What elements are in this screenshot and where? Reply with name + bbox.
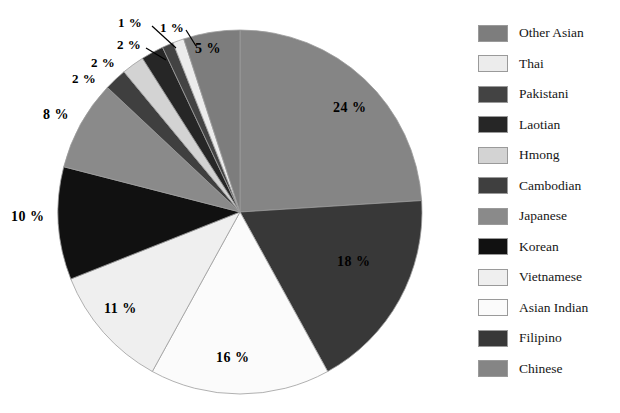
legend-item-label: Thai	[519, 56, 544, 72]
pie-label-cambodian: 2 %	[72, 71, 96, 87]
legend-item-chinese[interactable]: Chinese	[478, 354, 620, 385]
legend-swatch-icon	[478, 177, 508, 194]
legend-swatch-icon	[478, 299, 508, 316]
legend-item-pakistani[interactable]: Pakistani	[478, 79, 620, 110]
pie-label-hmong: 2 %	[91, 55, 115, 71]
legend-item-label: Korean	[519, 239, 559, 255]
pie-label-asian-indian: 16 %	[216, 350, 250, 366]
pie-label-vietnamese: 11 %	[104, 301, 137, 317]
legend-swatch-icon	[478, 55, 508, 72]
legend-swatch-icon	[478, 238, 508, 255]
chart-legend: Other AsianThaiPakistaniLaotianHmongCamb…	[478, 18, 620, 384]
legend-item-laotian[interactable]: Laotian	[478, 110, 620, 141]
legend-item-label: Cambodian	[519, 178, 581, 194]
legend-swatch-icon	[478, 86, 508, 103]
legend-item-other-asian[interactable]: Other Asian	[478, 18, 620, 49]
legend-swatch-icon	[478, 208, 508, 225]
legend-item-cambodian[interactable]: Cambodian	[478, 171, 620, 202]
legend-item-label: Hmong	[519, 147, 560, 163]
legend-item-label: Asian Indian	[519, 300, 588, 316]
pie-label-chinese: 24 %	[333, 100, 367, 116]
pie-slice-chinese[interactable]	[240, 30, 422, 212]
legend-swatch-icon	[478, 147, 508, 164]
pie-plot-area: 24 %18 %16 %11 %10 %8 %2 %2 %2 %1 %1 %5 …	[0, 0, 470, 413]
legend-swatch-icon	[478, 360, 508, 377]
legend-swatch-icon	[478, 25, 508, 42]
pie-label-other-asian: 5 %	[195, 41, 221, 57]
pie-chart-figure: 24 %18 %16 %11 %10 %8 %2 %2 %2 %1 %1 %5 …	[0, 0, 620, 413]
pie-label-korean: 10 %	[11, 209, 45, 225]
legend-item-filipino[interactable]: Filipino	[478, 323, 620, 354]
pie-label-japanese: 8 %	[43, 107, 69, 123]
legend-item-label: Filipino	[519, 330, 562, 346]
legend-item-hmong[interactable]: Hmong	[478, 140, 620, 171]
pie-label-filipino: 18 %	[337, 254, 371, 270]
legend-item-label: Other Asian	[519, 25, 584, 41]
pie-label-pakistani: 1 %	[118, 15, 142, 31]
legend-item-label: Chinese	[519, 361, 563, 377]
pie-label-thai: 1 %	[160, 20, 184, 36]
legend-item-japanese[interactable]: Japanese	[478, 201, 620, 232]
pie-slices	[58, 30, 422, 394]
legend-item-vietnamese[interactable]: Vietnamese	[478, 262, 620, 293]
pie-label-laotian: 2 %	[117, 37, 141, 53]
legend-swatch-icon	[478, 269, 508, 286]
legend-swatch-icon	[478, 116, 508, 133]
legend-item-label: Pakistani	[519, 86, 569, 102]
legend-item-korean[interactable]: Korean	[478, 232, 620, 263]
legend-item-label: Vietnamese	[519, 269, 582, 285]
legend-item-asian-indian[interactable]: Asian Indian	[478, 293, 620, 324]
legend-swatch-icon	[478, 330, 508, 347]
legend-item-label: Japanese	[519, 208, 567, 224]
legend-item-thai[interactable]: Thai	[478, 49, 620, 80]
legend-item-label: Laotian	[519, 117, 560, 133]
